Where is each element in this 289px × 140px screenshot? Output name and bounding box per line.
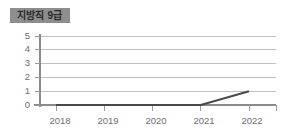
y-axis-tick-group	[35, 36, 40, 105]
y-axis-label-0: 0	[25, 99, 30, 110]
chart-container: 지방직 9급 5	[0, 0, 289, 140]
x-axis-label-2019: 2019	[97, 115, 118, 126]
y-axis-label-3: 3	[25, 57, 30, 68]
y-axis-label-group: 5 4 3 2 1 0	[25, 30, 30, 110]
y-axis-label-2: 2	[25, 71, 30, 82]
y-axis-label-1: 1	[25, 85, 30, 96]
x-axis-label-2022: 2022	[241, 115, 262, 126]
y-axis-label-5: 5	[25, 30, 30, 41]
x-axis-label-group: 2018 2019 2020 2021 2022	[49, 115, 262, 126]
line-chart-plot: 5 4 3 2 1 0 2018 2019 2020 2021 2022	[0, 0, 289, 140]
y-axis-label-4: 4	[25, 43, 30, 54]
x-axis-label-2021: 2021	[193, 115, 214, 126]
data-series-line	[56, 91, 249, 105]
x-axis-label-2018: 2018	[49, 115, 70, 126]
x-axis-label-2020: 2020	[145, 115, 166, 126]
